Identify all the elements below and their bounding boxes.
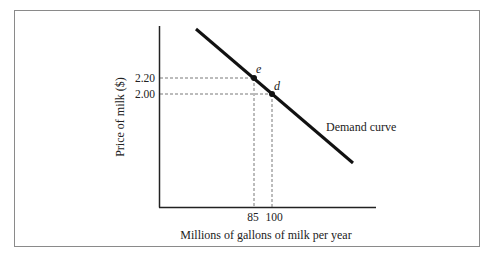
y-tick-2-20: 2.20 bbox=[135, 72, 155, 84]
point-e-label: e bbox=[256, 62, 262, 76]
y-axis-title: Price of milk ($) bbox=[113, 77, 127, 157]
demand-chart: e d Demand curve 2.20 2.00 85 100 Millio… bbox=[0, 0, 491, 263]
x-tick-85: 85 bbox=[247, 211, 259, 223]
demand-curve-line bbox=[196, 29, 353, 163]
x-tick-100: 100 bbox=[265, 211, 283, 223]
guide-lines bbox=[160, 78, 272, 207]
x-axis-title: Millions of gallons of milk per year bbox=[180, 228, 351, 242]
y-tick-2-00: 2.00 bbox=[135, 88, 155, 100]
demand-curve-label: Demand curve bbox=[326, 120, 396, 134]
point-d-label: d bbox=[274, 79, 281, 93]
